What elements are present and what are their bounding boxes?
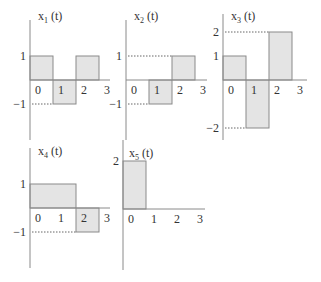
x-tick-label-x1: 1 [58, 83, 64, 97]
x-tick-label-x4: 1 [58, 211, 64, 225]
x-tick-label-x2: 2 [177, 83, 183, 97]
y-tick-label-x4: −1 [13, 225, 26, 239]
y-tick-label-x1: −1 [13, 97, 26, 111]
segment-x4-0 [30, 184, 76, 208]
y-tick-label-x2: 1 [116, 49, 122, 63]
plot-title-x5: x5 (t) [129, 146, 153, 162]
y-tick-label-x4: 1 [20, 177, 26, 191]
x-tick-label-x2: 3 [200, 83, 206, 97]
y-tick-label-x3: 2 [213, 25, 219, 39]
segment-x1-0 [30, 56, 53, 80]
y-tick-label-x3: 1 [213, 49, 219, 63]
plot-x1: 01231−1x1 (t) [13, 9, 110, 140]
segment-x3-2 [269, 32, 292, 80]
signal-plots: 01231−1x1 (t)01231−1x2 (t)012321−2x3 (t)… [0, 0, 321, 282]
segment-x4-1 [76, 208, 99, 232]
y-tick-label-x3: −2 [206, 121, 219, 135]
segment-x5-0 [123, 161, 146, 209]
x-tick-label-x5: 2 [174, 212, 180, 226]
x-tick-label-x1: 3 [104, 83, 110, 97]
segment-x2-0 [149, 80, 172, 104]
x-tick-label-x1: 2 [81, 83, 87, 97]
x-tick-label-x2: 0 [131, 83, 137, 97]
segment-x3-0 [223, 56, 246, 80]
x-tick-label-x4: 3 [104, 211, 110, 225]
segment-x1-1 [53, 80, 76, 104]
x-tick-label-x2: 1 [154, 83, 160, 97]
y-tick-label-x5: 2 [113, 154, 119, 168]
x-tick-label-x3: 1 [251, 83, 257, 97]
plot-title-x2: x2 (t) [134, 9, 158, 25]
y-tick-label-x2: −1 [109, 97, 122, 111]
segment-x2-1 [172, 56, 195, 80]
x-tick-label-x3: 3 [297, 83, 303, 97]
segment-x3-1 [246, 80, 269, 128]
x-tick-label-x3: 2 [274, 83, 280, 97]
plot-title-x1: x1 (t) [38, 9, 62, 25]
x-tick-label-x1: 0 [35, 83, 41, 97]
y-tick-label-x1: 1 [20, 49, 26, 63]
x-tick-label-x5: 1 [151, 212, 157, 226]
plot-x5: 01232x5 (t) [113, 140, 205, 270]
plot-title-x4: x4 (t) [38, 144, 62, 160]
plot-x3: 012321−2x3 (t) [206, 9, 307, 140]
x-tick-label-x5: 3 [197, 212, 203, 226]
x-tick-label-x3: 0 [228, 83, 234, 97]
plot-x4: 01231−1x4 (t) [13, 144, 110, 268]
plot-title-x3: x3 (t) [231, 9, 255, 25]
x-tick-label-x4: 2 [81, 211, 87, 225]
plot-x2: 01231−1x2 (t) [109, 9, 207, 140]
x-tick-label-x4: 0 [35, 211, 41, 225]
segment-x1-2 [76, 56, 99, 80]
x-tick-label-x5: 0 [128, 212, 134, 226]
